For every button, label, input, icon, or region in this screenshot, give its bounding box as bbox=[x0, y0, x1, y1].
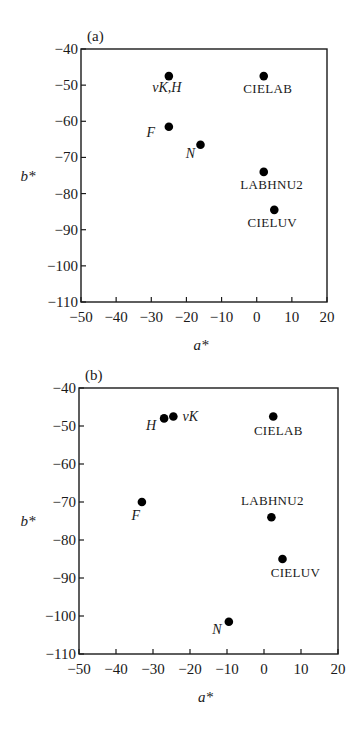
data-point bbox=[269, 412, 278, 421]
x-tick-label: 0 bbox=[253, 309, 261, 325]
y-tick-label: −40 bbox=[55, 41, 78, 57]
panel-label: (a) bbox=[87, 28, 104, 45]
data-point bbox=[278, 555, 287, 564]
x-tick-label: 0 bbox=[260, 661, 268, 677]
data-point-label: CIELUV bbox=[248, 215, 298, 230]
x-tick-label: −20 bbox=[175, 309, 198, 325]
y-tick-label: −70 bbox=[53, 494, 76, 510]
data-point bbox=[196, 140, 205, 149]
data-point-label: LABHNU2 bbox=[241, 493, 304, 508]
scatter-figure-b: (b)−50−40−30−20−1001020−40−50−60−70−80−9… bbox=[0, 360, 360, 720]
data-point-label: LABHNU2 bbox=[240, 177, 303, 192]
data-point bbox=[267, 513, 276, 522]
x-axis-label: a* bbox=[194, 337, 210, 353]
data-point-label: F bbox=[146, 125, 156, 140]
data-point-label: CIELAB bbox=[254, 423, 303, 438]
data-point bbox=[259, 72, 268, 81]
x-tick-label: 10 bbox=[284, 309, 299, 325]
data-point bbox=[138, 498, 147, 507]
y-tick-label: −100 bbox=[47, 258, 78, 274]
y-tick-label: −80 bbox=[55, 186, 78, 202]
data-point bbox=[225, 617, 234, 626]
data-point-label: H bbox=[145, 418, 157, 433]
x-tick-label: −50 bbox=[67, 661, 90, 677]
y-tick-label: −50 bbox=[55, 77, 78, 93]
data-point-label: N bbox=[185, 146, 196, 161]
data-point-label: CIELUV bbox=[271, 565, 321, 580]
x-tick-label: 10 bbox=[294, 661, 309, 677]
data-point-label: CIELAB bbox=[243, 81, 292, 96]
y-tick-label: −110 bbox=[48, 294, 78, 310]
y-tick-label: −60 bbox=[55, 113, 78, 129]
data-point bbox=[165, 122, 174, 131]
scatter-plot-a: (a)−50−40−30−20−1001020−40−50−60−70−80−9… bbox=[0, 0, 360, 360]
y-tick-label: −60 bbox=[53, 456, 76, 472]
data-point bbox=[259, 168, 268, 177]
x-tick-label: −10 bbox=[210, 309, 233, 325]
y-tick-label: −100 bbox=[45, 608, 76, 624]
y-tick-label: −90 bbox=[55, 222, 78, 238]
y-tick-label: −110 bbox=[46, 646, 76, 662]
x-tick-label: −50 bbox=[69, 309, 92, 325]
data-point-label: vK,H bbox=[152, 80, 182, 95]
scatter-figure-a: (a)−50−40−30−20−1001020−40−50−60−70−80−9… bbox=[0, 0, 360, 360]
data-point-label: vK bbox=[183, 409, 199, 424]
x-tick-label: 20 bbox=[331, 661, 346, 677]
data-point bbox=[169, 412, 178, 421]
x-tick-label: 20 bbox=[320, 309, 335, 325]
data-point bbox=[270, 206, 279, 215]
x-tick-label: −30 bbox=[141, 661, 164, 677]
x-tick-label: −40 bbox=[104, 661, 127, 677]
y-tick-label: −50 bbox=[53, 418, 76, 434]
data-point-label: N bbox=[211, 622, 222, 637]
y-tick-label: −80 bbox=[53, 532, 76, 548]
data-point-label: F bbox=[131, 508, 141, 523]
y-tick-label: −40 bbox=[53, 380, 76, 396]
x-axis-label: a* bbox=[198, 689, 214, 705]
x-tick-label: −40 bbox=[104, 309, 127, 325]
x-tick-label: −30 bbox=[140, 309, 163, 325]
y-axis-label: b* bbox=[21, 513, 37, 529]
x-tick-label: −20 bbox=[178, 661, 201, 677]
data-point bbox=[160, 414, 169, 423]
y-tick-label: −90 bbox=[53, 570, 76, 586]
y-tick-label: −70 bbox=[55, 149, 78, 165]
scatter-plot-b: (b)−50−40−30−20−1001020−40−50−60−70−80−9… bbox=[0, 360, 360, 720]
y-axis-label: b* bbox=[21, 168, 37, 184]
x-tick-label: −10 bbox=[215, 661, 238, 677]
panel-label: (b) bbox=[85, 367, 103, 384]
